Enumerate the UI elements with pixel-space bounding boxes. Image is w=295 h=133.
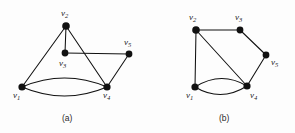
vertex-v5: [126, 51, 133, 58]
edge-v1-v4: [22, 78, 107, 87]
vertex-label-v5: v5: [124, 38, 131, 47]
vertex-label-subscript: 5: [275, 61, 278, 68]
caption-panel-a: (a): [62, 114, 72, 123]
vertex-label-subscript: 1: [190, 94, 193, 101]
figure-root: v1v2v3v4v5(a)v1v2v3v4v5(b): [0, 0, 295, 133]
vertex-label-v2: v2: [61, 9, 68, 18]
caption-panel-b: (b): [219, 114, 229, 123]
vertex-label-v4: v4: [103, 91, 110, 100]
vertex-label-subscript: 2: [65, 12, 68, 19]
graph-panel-b: [191, 26, 269, 94]
vertex-label-v3: v3: [235, 13, 242, 22]
edge-v1-v4: [195, 86, 247, 95]
graph-panel-a: [18, 22, 132, 96]
graph-drawing-canvas: [0, 0, 295, 133]
vertex-label-v4: v4: [250, 91, 257, 100]
edge-v2-v4: [196, 30, 247, 86]
vertex-label-subscript: 4: [254, 94, 257, 101]
vertex-label-v1: v1: [186, 91, 193, 100]
edge-v5-v4: [107, 54, 129, 87]
edge-v2-v1: [195, 30, 196, 87]
vertex-label-v5: v5: [271, 58, 278, 67]
vertex-v3: [62, 50, 69, 57]
vertex-label-v3: v3: [59, 59, 66, 68]
vertex-label-subscript: 2: [193, 16, 196, 23]
vertex-label-v2: v2: [189, 13, 196, 22]
vertex-v2: [192, 26, 200, 34]
vertex-v1: [18, 83, 25, 90]
edge-v5-v4: [247, 55, 266, 86]
vertex-v5: [263, 52, 270, 59]
edge-v3-v5: [240, 30, 266, 55]
vertex-label-subscript: 3: [239, 16, 242, 23]
vertex-label-v1: v1: [13, 91, 20, 100]
edge-v1-v4: [195, 78, 247, 87]
vertex-label-subscript: 4: [107, 94, 110, 101]
vertex-label-subscript: 1: [17, 94, 20, 101]
edge-v1-v4: [22, 87, 107, 96]
edge-v3-v5: [65, 53, 129, 54]
vertex-label-subscript: 3: [63, 62, 66, 69]
vertex-v1: [191, 83, 198, 90]
vertex-v2: [62, 22, 70, 30]
edge-v2-v3: [65, 26, 66, 53]
vertex-label-subscript: 5: [128, 41, 131, 48]
vertex-v4: [243, 82, 250, 89]
vertex-v3: [237, 27, 244, 34]
